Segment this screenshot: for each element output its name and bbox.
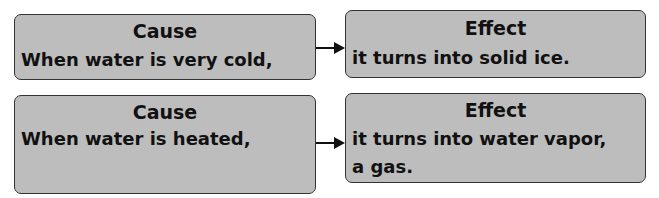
effect-text-2a: it turns into water vapor,: [352, 128, 606, 149]
effect-title-1: Effect: [346, 17, 645, 39]
cause-box-2: Cause When water is heated,: [14, 95, 316, 194]
cause-box-1: Cause When water is very cold,: [14, 14, 316, 80]
effect-text-1: it turns into solid ice.: [352, 47, 570, 68]
effect-text-2b: a gas.: [352, 156, 413, 177]
cause-text-1: When water is very cold,: [21, 49, 273, 70]
arrow-icon-1: [316, 47, 343, 49]
cause-title-2: Cause: [15, 101, 315, 123]
effect-box-2: Effect it turns into water vapor, a gas.: [345, 93, 646, 183]
effect-box-1: Effect it turns into solid ice.: [345, 10, 646, 78]
cause-text-2: When water is heated,: [21, 128, 251, 149]
cause-title-1: Cause: [15, 20, 315, 42]
effect-title-2: Effect: [346, 99, 645, 121]
arrow-icon-2: [316, 142, 343, 144]
